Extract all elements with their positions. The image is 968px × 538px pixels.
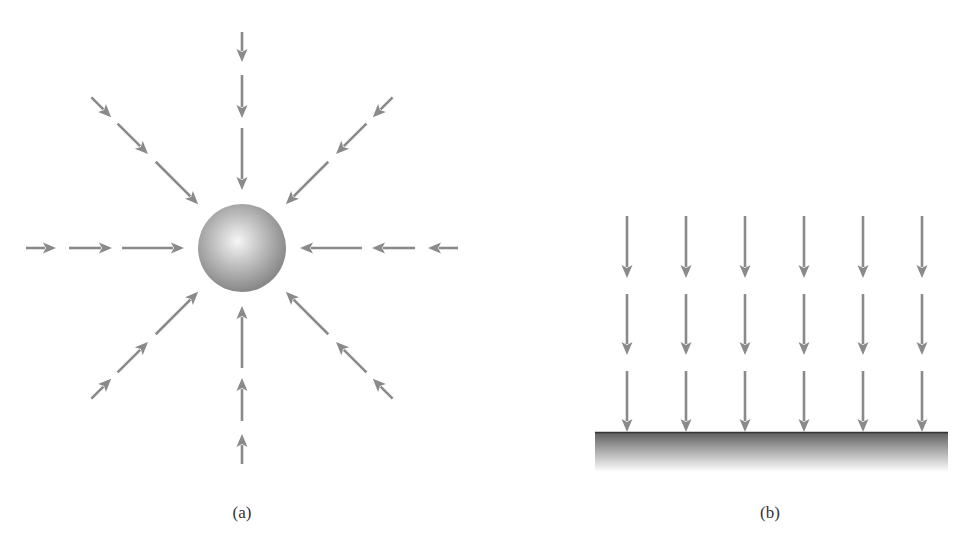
field-arrow xyxy=(156,292,198,334)
field-arrow xyxy=(237,75,248,118)
field-arrow xyxy=(681,371,692,432)
field-arrow xyxy=(118,342,148,372)
field-arrow xyxy=(428,243,458,254)
field-arrow xyxy=(740,294,751,355)
field-arrow xyxy=(91,379,111,399)
field-arrow xyxy=(237,306,248,368)
figure-canvas xyxy=(0,0,968,538)
field-arrow xyxy=(740,371,751,432)
flat-surface xyxy=(595,432,948,472)
field-arrow xyxy=(917,371,928,432)
field-arrow xyxy=(336,342,366,372)
panel-a-label: (a) xyxy=(233,503,252,523)
field-arrow xyxy=(91,97,111,117)
panel-b-label: (b) xyxy=(760,503,780,523)
field-arrow xyxy=(799,371,810,432)
field-arrow xyxy=(740,216,751,278)
field-arrow xyxy=(300,243,362,254)
field-arrow xyxy=(622,216,633,278)
field-arrow xyxy=(372,243,415,254)
field-arrow xyxy=(799,216,810,278)
field-arrow xyxy=(237,434,248,464)
field-arrow xyxy=(336,124,366,154)
field-arrow xyxy=(373,379,393,399)
field-arrow xyxy=(373,97,393,117)
field-arrow xyxy=(917,294,928,355)
field-arrow xyxy=(286,292,328,334)
field-arrow xyxy=(799,294,810,355)
field-arrow xyxy=(26,243,56,254)
field-arrow xyxy=(118,124,148,154)
field-arrow xyxy=(122,243,184,254)
sphere xyxy=(198,204,286,292)
field-arrow xyxy=(681,216,692,278)
field-arrow xyxy=(237,378,248,421)
field-arrow xyxy=(69,243,112,254)
field-arrow xyxy=(681,294,692,355)
field-arrow xyxy=(156,162,198,204)
field-arrow xyxy=(622,294,633,355)
field-arrow xyxy=(858,294,869,355)
field-arrow xyxy=(237,128,248,190)
field-arrow xyxy=(286,162,328,204)
field-arrow xyxy=(858,216,869,278)
field-arrow xyxy=(237,32,248,62)
field-arrow xyxy=(622,371,633,432)
field-arrow xyxy=(917,216,928,278)
field-arrow xyxy=(858,371,869,432)
panel-b-uniform-field xyxy=(622,216,928,432)
